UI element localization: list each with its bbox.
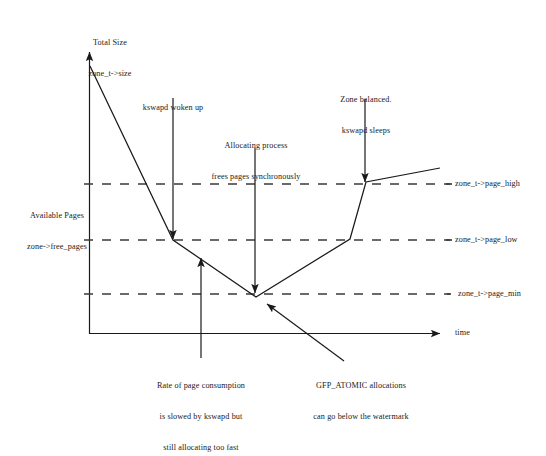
watermark-label-page-high: zone_t->page_high [455, 179, 520, 189]
y-axis-title: Total Size zone_t->size [88, 17, 131, 100]
annotation-gfp-atomic-line1: GFP_ATOMIC allocations [313, 381, 408, 391]
annotation-rate-of-page-consumption: Rate of page consumption is slowed by ks… [157, 360, 245, 456]
y-axis-title-line1: Total Size [88, 38, 131, 48]
annotation-gfp-atomic-line2: can go below the watermark [313, 412, 408, 422]
y-axis-available-pages-label: Available Pages zone->free_pages [27, 190, 87, 273]
x-axis-title: time [455, 328, 470, 338]
y-axis-title-line2: zone_t->size [88, 69, 131, 79]
available-pages-line2: zone->free_pages [27, 242, 87, 252]
annotation-zone-balanced: Zone balanced. kswapd sleeps [340, 74, 391, 157]
available-pages-line1: Available Pages [27, 211, 87, 221]
annotation-gfp-atomic: GFP_ATOMIC allocations can go below the … [313, 360, 408, 443]
annotation-zone-balanced-line1: Zone balanced. [340, 95, 391, 105]
watermark-label-page-min: zone_t->page_min [458, 289, 521, 299]
watermark-label-page-low: zone_t->page_low [455, 235, 518, 245]
annotation-allocating-process: Allocating process frees pages synchrono… [212, 120, 301, 203]
annotation-allocating-process-line1: Allocating process [212, 141, 301, 151]
leader-gfp-atomic [267, 304, 344, 361]
annotation-allocating-process-line2: frees pages synchronously [212, 172, 301, 182]
annotation-kswapd-woken-up: kswapd woken up [143, 82, 204, 134]
annotation-rate-line2: is slowed by kswapd but [157, 412, 245, 422]
annotation-rate-line3: still allocating too fast [157, 443, 245, 453]
annotation-kswapd-woken-up-line1: kswapd woken up [143, 103, 204, 113]
annotation-zone-balanced-line2: kswapd sleeps [340, 126, 391, 136]
annotation-rate-line1: Rate of page consumption [157, 381, 245, 391]
